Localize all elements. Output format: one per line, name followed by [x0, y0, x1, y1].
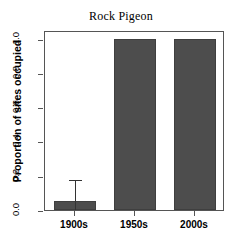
- y-tick-label: 0.6: [10, 88, 21, 126]
- y-tick-label: 0.2: [10, 156, 21, 194]
- y-tick-mark: [38, 108, 43, 109]
- y-tick-label: 0.4: [10, 122, 21, 160]
- y-tick-mark: [38, 142, 43, 143]
- y-tick-mark: [38, 211, 43, 212]
- chart-title: Rock Pigeon: [0, 9, 242, 24]
- y-tick-label: 1.0: [10, 19, 21, 57]
- x-tick-mark: [194, 211, 195, 216]
- chart-figure: Rock Pigeon Proportion of sites occupied…: [0, 0, 242, 242]
- x-tick-label-1950s: 1950s: [104, 219, 164, 230]
- x-tick-mark: [74, 211, 75, 216]
- error-bar-cap-1900s: [69, 180, 82, 181]
- y-tick-mark: [38, 177, 43, 178]
- x-tick-label-2000s: 2000s: [164, 219, 224, 230]
- x-tick-label-1900s: 1900s: [44, 219, 104, 230]
- y-tick-mark: [38, 74, 43, 75]
- bar-2000s: [174, 39, 216, 210]
- y-tick-label: 0.8: [10, 53, 21, 91]
- y-tick-label: 0.0: [10, 191, 21, 229]
- error-bar-stem-1900s: [75, 181, 76, 210]
- plot-inner: [45, 32, 223, 210]
- bar-1950s: [114, 39, 156, 210]
- y-tick-mark: [38, 40, 43, 41]
- x-tick-mark: [134, 211, 135, 216]
- plot-area: [44, 31, 224, 211]
